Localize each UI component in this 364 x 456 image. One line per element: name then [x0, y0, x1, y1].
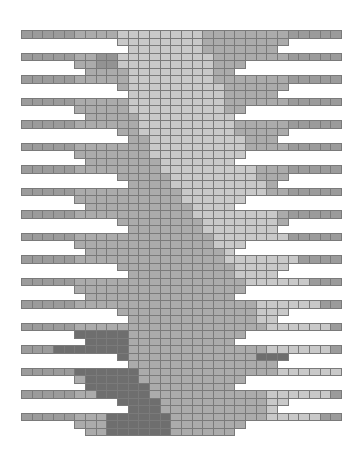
grid-cell — [330, 210, 342, 219]
grid-cell — [277, 38, 289, 47]
grid-cell — [277, 308, 289, 317]
grid-cell — [330, 368, 342, 377]
grid-cell — [234, 420, 246, 429]
grid-cell — [234, 150, 246, 159]
grid-cell — [330, 345, 342, 354]
grid-cell — [234, 285, 246, 294]
grid-cell — [277, 83, 289, 92]
grid-cell — [330, 278, 342, 287]
grid-cell — [277, 398, 289, 407]
grid-cell — [234, 240, 246, 249]
grid-cell — [330, 165, 342, 174]
grid-cell — [330, 98, 342, 107]
grid-cell — [234, 195, 246, 204]
grid-cell — [277, 353, 289, 362]
grid-cell — [330, 233, 342, 242]
grid-cell — [224, 428, 236, 437]
grid-cell — [330, 30, 342, 39]
grid-cell — [277, 218, 289, 227]
grid-cell — [234, 60, 246, 69]
grid-cell — [330, 53, 342, 62]
grid-cell — [277, 263, 289, 272]
grid-cell — [330, 120, 342, 129]
grid-cell — [277, 128, 289, 137]
grid-cell — [330, 75, 342, 84]
grid-cell — [234, 105, 246, 114]
grid-cell — [330, 300, 342, 309]
grid-cell — [330, 413, 342, 422]
grid-cell — [330, 323, 342, 332]
grid-cell — [330, 255, 342, 264]
grid-cell — [234, 375, 246, 384]
grid-cell — [234, 330, 246, 339]
grid-cell — [330, 390, 342, 399]
grid-cell — [330, 188, 342, 197]
grid-cell — [277, 173, 289, 182]
cell-grid-diagram — [0, 0, 364, 456]
grid-cell — [330, 143, 342, 152]
